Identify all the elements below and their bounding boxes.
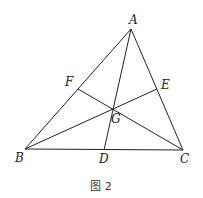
segments [25, 29, 183, 150]
figure-caption: 图 2 [90, 180, 112, 193]
label-B: B [14, 151, 24, 165]
label-E: E [160, 78, 170, 92]
label-F: F [64, 75, 74, 89]
triangle-medians-diagram: A B C D E F G 图 2 [0, 0, 203, 198]
label-D: D [98, 152, 109, 166]
point-labels: A B C D E F G [14, 13, 189, 166]
label-A: A [128, 13, 138, 27]
segment-CF [78, 89, 183, 150]
segment-BE [25, 89, 157, 149]
label-C: C [180, 152, 189, 166]
label-G: G [111, 112, 121, 126]
segment-AD [104, 29, 131, 150]
